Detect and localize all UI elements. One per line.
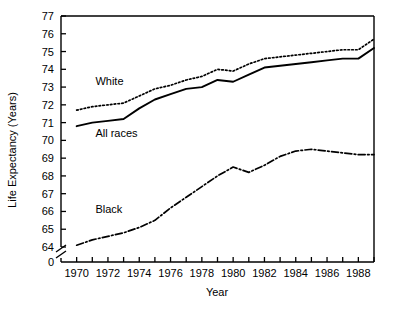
y-axis-ticks bbox=[61, 16, 66, 247]
x-tick-label-1978: 1978 bbox=[190, 267, 214, 279]
y-axis-tick-labels: 6465666768697071727374757677 bbox=[42, 10, 54, 253]
series-label-all-races: All races bbox=[95, 127, 138, 139]
y-tick-label-64: 64 bbox=[42, 241, 54, 253]
x-tick-label-1988: 1988 bbox=[346, 267, 370, 279]
chart-figure: 6465666768697071727374757677 19701972197… bbox=[0, 0, 399, 313]
y-tick-label-69: 69 bbox=[42, 152, 54, 164]
y-tick-label-71: 71 bbox=[42, 117, 54, 129]
y-axis-title: Life Expectancy (Years) bbox=[6, 92, 18, 208]
x-axis-ticks bbox=[77, 257, 374, 262]
x-tick-label-1970: 1970 bbox=[64, 267, 88, 279]
y-tick-label-76: 76 bbox=[42, 28, 54, 40]
series-label-black: Black bbox=[95, 203, 122, 215]
y-tick-label-68: 68 bbox=[42, 170, 54, 182]
x-tick-label-1982: 1982 bbox=[252, 267, 276, 279]
x-tick-label-1976: 1976 bbox=[158, 267, 182, 279]
y-tick-label-74: 74 bbox=[42, 63, 54, 75]
plot-frame bbox=[56, 16, 374, 262]
y-tick-label-72: 72 bbox=[42, 99, 54, 111]
y-axis-zero-label: 0 bbox=[48, 256, 54, 268]
x-tick-label-1986: 1986 bbox=[315, 267, 339, 279]
y-tick-label-66: 66 bbox=[42, 205, 54, 217]
y-tick-label-73: 73 bbox=[42, 81, 54, 93]
x-tick-label-1974: 1974 bbox=[127, 267, 151, 279]
y-tick-label-67: 67 bbox=[42, 188, 54, 200]
y-tick-label-65: 65 bbox=[42, 223, 54, 235]
x-tick-label-1972: 1972 bbox=[96, 267, 120, 279]
series-label-white: White bbox=[95, 75, 123, 87]
y-tick-label-70: 70 bbox=[42, 134, 54, 146]
series-inline-labels: WhiteAll racesBlack bbox=[95, 75, 138, 215]
x-axis-tick-labels: 1970197219741976197819801982198419861988 bbox=[64, 267, 370, 279]
x-tick-label-1980: 1980 bbox=[221, 267, 245, 279]
series-line-black bbox=[77, 149, 374, 245]
life-expectancy-line-chart: 6465666768697071727374757677 19701972197… bbox=[0, 0, 399, 313]
y-tick-label-75: 75 bbox=[42, 46, 54, 58]
x-axis-title: Year bbox=[206, 286, 229, 298]
x-tick-label-1984: 1984 bbox=[284, 267, 308, 279]
y-tick-label-77: 77 bbox=[42, 10, 54, 22]
